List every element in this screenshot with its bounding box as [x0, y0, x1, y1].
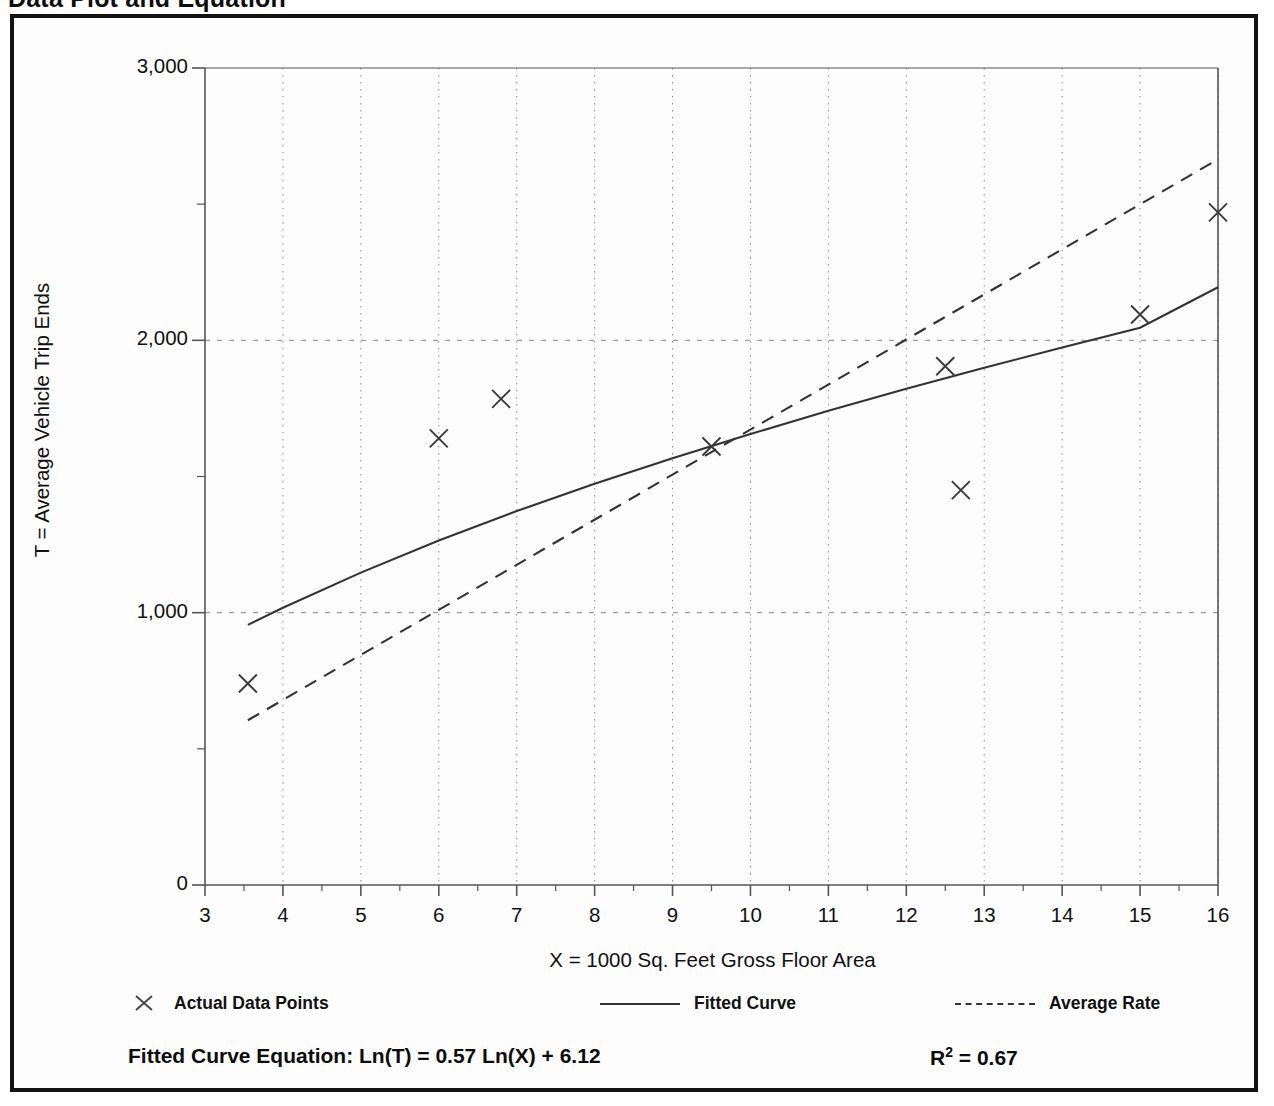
r-squared-value: R2 = 0.67 — [930, 1044, 1018, 1070]
x-tick-label: 14 — [1032, 903, 1092, 927]
fitted-curve-equation: Fitted Curve Equation: Ln(T) = 0.57 Ln(X… — [128, 1044, 601, 1068]
r-squared-exponent: 2 — [945, 1044, 953, 1060]
dashed-line-icon — [955, 992, 1035, 1014]
x-tick-label: 7 — [487, 903, 547, 927]
x-tick-label: 12 — [876, 903, 936, 927]
y-tick-label: 3,000 — [78, 54, 188, 78]
r-squared-number: = 0.67 — [953, 1046, 1018, 1069]
legend-label-actual-data-points: Actual Data Points — [174, 993, 329, 1014]
y-tick-label: 2,000 — [78, 326, 188, 350]
chart-legend: Actual Data Points Fitted Curve Average … — [0, 988, 1274, 1028]
y-axis-title: T = Average Vehicle Trip Ends — [30, 230, 54, 610]
r-squared-symbol: R — [930, 1046, 945, 1069]
equation-row: Fitted Curve Equation: Ln(T) = 0.57 Ln(X… — [0, 1040, 1274, 1086]
legend-item-actual-data-points[interactable]: Actual Data Points — [128, 988, 329, 1018]
legend-item-average-rate[interactable]: Average Rate — [955, 988, 1160, 1018]
legend-label-fitted-curve: Fitted Curve — [694, 993, 796, 1014]
x-tick-label: 13 — [954, 903, 1014, 927]
x-tick-label: 16 — [1188, 903, 1248, 927]
x-tick-label: 4 — [253, 903, 313, 927]
page-title: Data Plot and Equation — [8, 0, 286, 13]
x-tick-label: 15 — [1110, 903, 1170, 927]
legend-item-fitted-curve[interactable]: Fitted Curve — [600, 988, 796, 1018]
x-tick-label: 3 — [175, 903, 235, 927]
x-tick-label: 11 — [798, 903, 858, 927]
x-tick-label: 9 — [643, 903, 703, 927]
solid-line-icon — [600, 992, 680, 1014]
x-tick-label: 6 — [409, 903, 469, 927]
x-tick-label: 5 — [331, 903, 391, 927]
x-marker-icon — [128, 992, 162, 1014]
x-tick-label: 10 — [720, 903, 780, 927]
x-axis-title: X = 1000 Sq. Feet Gross Floor Area — [205, 948, 1220, 972]
x-tick-label: 8 — [565, 903, 625, 927]
legend-label-average-rate: Average Rate — [1049, 993, 1160, 1014]
y-tick-label: 0 — [78, 871, 188, 895]
y-tick-label: 1,000 — [78, 599, 188, 623]
figure-frame — [10, 14, 1258, 1092]
